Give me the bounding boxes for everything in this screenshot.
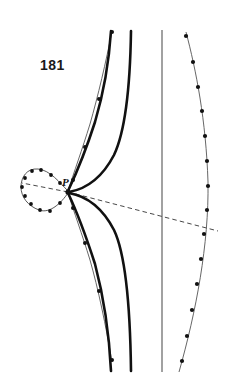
canvas-background xyxy=(0,0,228,390)
point-label-p: P xyxy=(62,177,69,188)
figure-number: 181 xyxy=(40,58,65,72)
curve-diagram xyxy=(0,0,228,390)
node-point-p xyxy=(65,189,70,194)
figure-canvas: 181 P xyxy=(0,0,228,390)
